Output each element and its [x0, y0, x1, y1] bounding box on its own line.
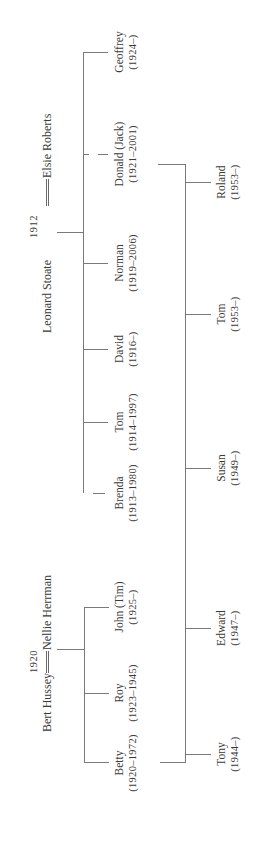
branch-donald-tick: [98, 154, 108, 155]
person-betty: Betty (1920–1972): [112, 721, 140, 805]
branch-tom-1953: [185, 314, 211, 315]
person-donald-jack: Donald (Jack) (1921–2001): [112, 112, 140, 196]
person-norman: Norman (1919–2006): [112, 221, 140, 305]
branch-tony: [185, 754, 211, 755]
branch-david: [83, 349, 108, 350]
person-john-tim: John (Tim) (1925–): [112, 567, 140, 647]
hussey-husband-name: Bert Hussey: [41, 673, 53, 732]
person-roland: Roland (1953–): [214, 152, 242, 212]
grandchildren-sibling-bar: [185, 164, 186, 763]
branch-roland: [185, 182, 211, 183]
donald-to-children-line: [158, 164, 185, 165]
person-geoffrey: Geoffrey (1924–): [112, 22, 140, 82]
branch-roy: [84, 693, 109, 694]
branch-john-tim: [84, 607, 109, 608]
branch-betty: [84, 762, 109, 763]
person-brenda: Brenda (1913–1980): [112, 451, 140, 535]
family-tree-diagram: 1912 Leonard Stoate Elsie Roberts Geoffr…: [0, 0, 278, 841]
hussey-marriage-year: 1920: [29, 650, 40, 673]
person-susan: Susan (1949–): [214, 438, 242, 498]
branch-brenda: [93, 493, 105, 494]
hussey-wife-name: Nellie Herrman: [41, 575, 53, 650]
person-tom-1953: Tom (1953–): [214, 284, 242, 344]
stoate-marriage-double-line: [46, 179, 49, 206]
stoate-sibling-bar: [83, 52, 84, 493]
branch-donald: [83, 154, 89, 155]
branch-geoffrey: [83, 52, 108, 53]
betty-to-children-line: [160, 762, 185, 763]
person-tony: Tony (1944–): [214, 724, 242, 784]
hussey-marriage-double-line: [46, 651, 49, 673]
stoate-wife-name: Elsie Roberts: [41, 114, 53, 178]
hussey-sibling-bar: [84, 607, 85, 763]
branch-edward: [185, 628, 211, 629]
stoate-stem-line: [57, 232, 83, 233]
branch-susan: [185, 468, 211, 469]
stoate-marriage-year: 1912: [29, 215, 40, 238]
person-edward: Edward (1947–): [214, 598, 242, 658]
branch-tom-1914: [83, 422, 108, 423]
person-david: David (1916–): [112, 319, 140, 379]
branch-norman: [83, 263, 108, 264]
hussey-stem-line: [57, 649, 84, 650]
stoate-husband-name: Leonard Stoate: [41, 260, 53, 333]
